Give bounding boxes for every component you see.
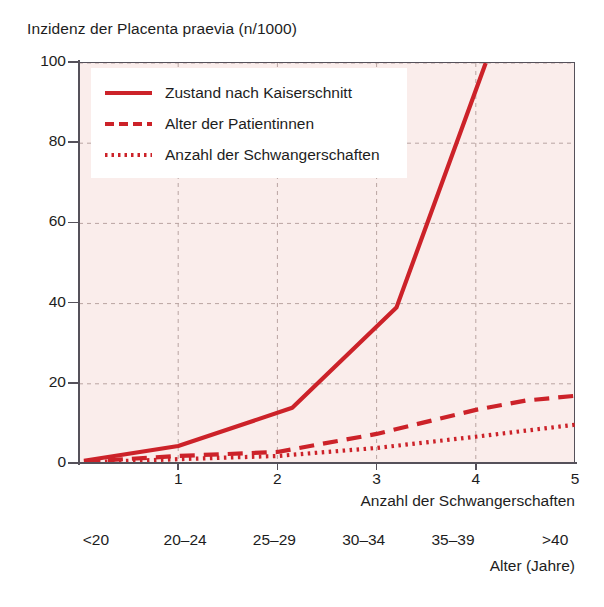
- legend-label: Zustand nach Kaiserschnitt: [165, 85, 352, 101]
- age-axis-label: >40: [515, 531, 595, 549]
- legend-label: Anzahl der Schwangerschaften: [165, 147, 380, 163]
- legend-item: Alter der Patientinnen: [105, 108, 407, 139]
- age-axis-label: 25–29: [234, 531, 314, 549]
- legend-swatch-solid-icon: [105, 85, 152, 101]
- legend-swatch-dotted-icon: [105, 147, 152, 163]
- chart-figure: Inzidenz der Placenta praevia (n/1000) 0…: [0, 0, 604, 607]
- age-axis-label: <20: [56, 531, 136, 549]
- chart-legend: Zustand nach KaiserschnittAlter der Pati…: [91, 68, 407, 178]
- legend-item: Anzahl der Schwangerschaften: [105, 139, 407, 170]
- legend-swatch-dashed-icon: [105, 116, 152, 132]
- secondary-axis-title: Alter (Jahre): [490, 557, 575, 575]
- age-axis-label: 35–39: [413, 531, 493, 549]
- legend-item: Zustand nach Kaiserschnitt: [105, 77, 407, 108]
- age-axis-label: 20–24: [145, 531, 225, 549]
- legend-label: Alter der Patientinnen: [165, 116, 314, 132]
- age-axis-label: 30–34: [324, 531, 404, 549]
